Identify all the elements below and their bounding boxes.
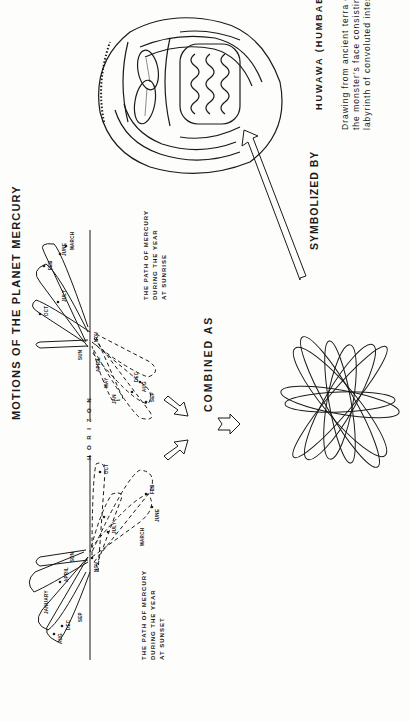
mask-title: HUWAWA (HUMBABA) [314,0,324,110]
mask-description: Drawing from ancient terra cotta mask, t… [340,0,373,130]
diagram-canvas: MOTIONS OF THE PLANET MERCURY H O R I Z … [0,0,409,722]
